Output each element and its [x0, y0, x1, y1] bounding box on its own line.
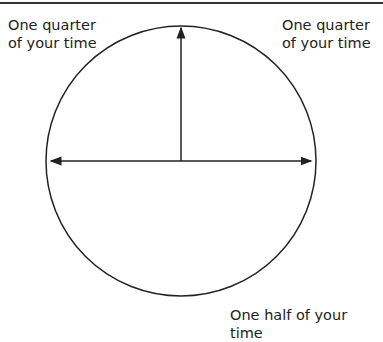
label-line: of your time	[8, 34, 97, 52]
label-line: of your time	[282, 34, 371, 52]
label-top-right: One quarter of your time	[282, 16, 371, 52]
label-line: One quarter	[282, 16, 371, 34]
label-bottom-right: One half of your time	[230, 306, 383, 342]
label-line: One quarter	[8, 16, 97, 34]
label-top-left: One quarter of your time	[8, 16, 97, 52]
